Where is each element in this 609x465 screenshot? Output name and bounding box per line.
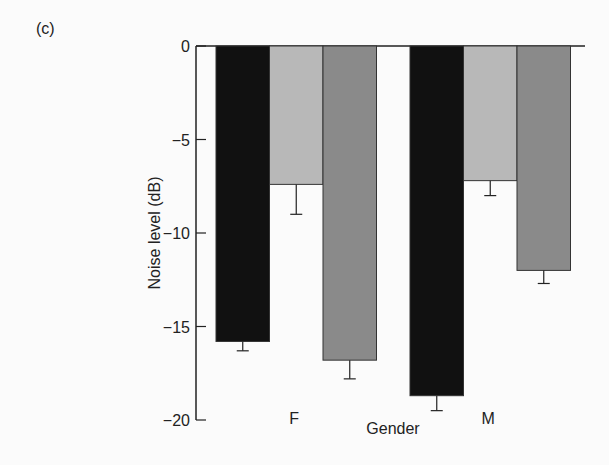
y-tick-label: −5 <box>172 132 190 149</box>
y-axis-title: Noise level (dB) <box>146 177 163 290</box>
x-category-label: F <box>289 410 299 427</box>
bar <box>216 46 270 341</box>
bar <box>410 46 464 396</box>
bar <box>270 46 324 184</box>
bar <box>517 46 571 270</box>
x-category-label: M <box>482 410 495 427</box>
y-tick-label: −10 <box>163 225 190 242</box>
bar <box>323 46 377 360</box>
x-axis-title: Gender <box>366 420 420 437</box>
y-tick-label: −20 <box>163 412 190 429</box>
bar-chart: 0−5−10−15−20Noise level (dB)FMGender <box>0 0 609 465</box>
bar <box>464 46 518 181</box>
y-tick-label: −15 <box>163 319 190 336</box>
y-tick-label: 0 <box>181 38 190 55</box>
